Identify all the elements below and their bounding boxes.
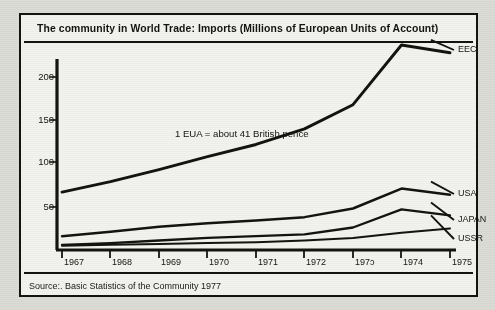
leader-line-japan bbox=[431, 202, 454, 220]
chart-svg bbox=[21, 15, 476, 295]
chart-card: The community in World Trade: Imports (M… bbox=[19, 13, 478, 297]
leader-line-ussr bbox=[431, 215, 454, 239]
series-line-japan bbox=[62, 209, 450, 244]
leader-line-eec bbox=[431, 40, 454, 50]
screenshot-root: The community in World Trade: Imports (M… bbox=[0, 0, 495, 310]
source-divider bbox=[24, 272, 473, 274]
plot-area: 20015010050 196719681969197019711972197ɔ… bbox=[21, 15, 476, 295]
source-note: Source:. Basic Statistics of the Communi… bbox=[29, 281, 221, 291]
series-line-eec bbox=[62, 45, 450, 192]
